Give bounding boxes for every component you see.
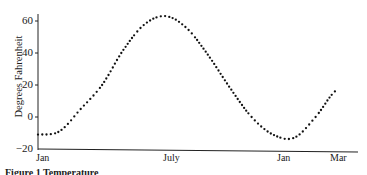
xtick-jan: Jan	[36, 152, 49, 163]
xtick-jan-2: Jan	[277, 152, 290, 163]
xtick-mar: Mar	[330, 152, 347, 163]
x-axis	[38, 149, 358, 152]
temperature-chart	[0, 0, 367, 175]
y-axis-label: Degrees Fahrenheit	[13, 38, 24, 118]
xtick-july: July	[163, 152, 180, 163]
temperature-dots	[37, 15, 336, 140]
ytick-60: 60	[3, 14, 33, 26]
figure-caption: Figure 1 Temperature	[5, 167, 99, 175]
ytick-neg20: −20	[3, 142, 33, 154]
